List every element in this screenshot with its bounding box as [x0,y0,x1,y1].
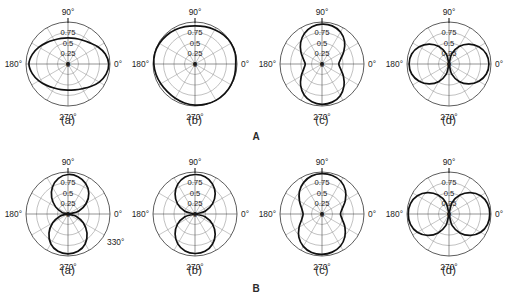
polar-axes: 00.250.50.7590°180°270°0° [4,2,132,120]
angle-tick-label-0deg: 0° [495,59,503,69]
polar-panel-B-a: 00.250.50.7590°180°270°0°330°(a) [4,152,132,292]
polar-panel-B-d: 00.250.50.7590°180°270°0°(d) [385,152,512,292]
angle-tick-label-0deg: 0° [368,59,376,69]
radial-tick-label-0.75: 0.75 [315,178,330,187]
angle-tick-label-90deg: 90° [62,157,75,167]
polar-axes: 00.250.50.7590°180°270°0° [258,2,386,120]
polar-axes: 00.250.50.7590°180°270°0°330° [4,152,132,270]
polar-panel-A-c: 00.250.50.7590°180°270°0°(c) [258,2,386,142]
polar-panel-B-c: 00.250.50.7590°180°270°0°(c) [258,152,386,292]
radial-tick-label-0.5: 0.5 [444,189,455,198]
panel-caption: (d) [385,264,512,276]
angle-tick-label-180deg: 180° [132,59,149,69]
grid-spoke-240 [301,214,322,250]
angle-tick-label-180deg: 180° [5,209,22,219]
grid-spoke-240 [47,64,68,100]
angle-tick-label-90deg: 90° [443,157,456,167]
panel-caption: (b) [131,264,259,276]
figure-caption-strip [0,299,512,308]
polar-panel-A-b: 00.250.50.7590°180°270°0°(b) [131,2,259,142]
radial-tick-label-0.75: 0.75 [442,28,457,37]
radial-tick-label-0.75: 0.75 [61,28,76,37]
radial-tick-label-0.5: 0.5 [444,39,455,48]
polar-axes: 00.250.50.7590°180°270°0° [258,152,386,270]
angle-tick-label-180deg: 180° [386,59,403,69]
panel-caption: (b) [131,114,259,126]
polar-panel-A-a: 00.250.50.7590°180°270°0°(a) [4,2,132,142]
radial-tick-label-0.5: 0.5 [190,39,201,48]
radial-tick-label-0.75: 0.75 [188,28,203,37]
section-label-B: B [0,283,512,294]
polar-axes: 00.250.50.7590°180°270°0° [131,2,259,120]
radial-tick-label-0: 0 [66,60,70,69]
grid-spoke-330 [322,214,358,235]
radial-tick-label-0.5: 0.5 [317,189,328,198]
angle-tick-label-90deg: 90° [316,7,329,17]
panel-caption: (a) [4,264,132,276]
polar-panel-B-b: 00.250.50.7590°180°270°0°(b) [131,152,259,292]
grid-spoke-300 [68,64,89,100]
radial-tick-label-0.25: 0.25 [315,199,330,208]
figure-row-A: 00.250.50.7590°180°270°0°(a)00.250.50.75… [0,2,512,142]
grid-spoke-240 [174,214,195,250]
section-label-A: A [0,131,512,142]
angle-tick-label-90deg: 90° [189,157,202,167]
radial-tick-label-0.75: 0.75 [315,28,330,37]
angle-tick-label-180deg: 180° [259,59,276,69]
angle-tick-label-0deg: 0° [368,209,376,219]
radial-tick-label-0.25: 0.25 [188,199,203,208]
radial-tick-label-0: 0 [320,60,324,69]
angle-tick-label-330deg: 330° [107,237,124,247]
angle-tick-label-180deg: 180° [132,209,149,219]
figure-row-B: 00.250.50.7590°180°270°0°330°(a)00.250.5… [0,152,512,292]
grid-spoke-300 [322,214,343,250]
radial-tick-label-0.25: 0.25 [188,49,203,58]
grid-spoke-210 [413,64,449,85]
grid-spoke-240 [47,214,68,250]
angle-tick-label-0deg: 0° [114,209,122,219]
grid-spoke-210 [286,214,322,235]
angle-tick-label-0deg: 0° [241,59,249,69]
angle-tick-label-90deg: 90° [62,7,75,17]
grid-spoke-240 [174,64,195,100]
polar-axes: 00.250.50.7590°180°270°0° [131,152,259,270]
grid-spoke-300 [195,64,216,100]
angle-tick-label-180deg: 180° [5,59,22,69]
radial-tick-label-0: 0 [193,60,197,69]
polar-axes: 00.250.50.7590°180°270°0° [385,152,512,270]
angle-tick-label-0deg: 0° [114,59,122,69]
radial-tick-label-0: 0 [320,210,324,219]
radial-tick-label-0.5: 0.5 [63,189,74,198]
angle-tick-label-90deg: 90° [316,157,329,167]
grid-spoke-210 [32,64,68,85]
radial-tick-label-0.75: 0.75 [442,178,457,187]
grid-spoke-330 [449,64,485,85]
grid-spoke-300 [68,214,89,250]
radial-tick-label-0.75: 0.75 [188,178,203,187]
radial-tick-label-0.5: 0.5 [63,39,74,48]
angle-tick-label-0deg: 0° [495,209,503,219]
radial-tick-label-0.25: 0.25 [61,199,76,208]
angle-tick-label-180deg: 180° [386,209,403,219]
grid-spoke-330 [195,64,231,85]
panel-caption: (c) [258,114,386,126]
angle-tick-label-180deg: 180° [259,209,276,219]
panel-caption: (a) [4,114,132,126]
polar-panel-A-d: 00.250.50.7590°180°270°0°(d) [385,2,512,142]
polar-plot-figure: 00.250.50.7590°180°270°0°(a)00.250.50.75… [0,0,512,308]
grid-spoke-210 [159,64,195,85]
polar-axes: 00.250.50.7590°180°270°0° [385,2,512,120]
radial-tick-label-0.75: 0.75 [61,178,76,187]
angle-tick-label-90deg: 90° [189,7,202,17]
angle-tick-label-90deg: 90° [443,7,456,17]
radial-tick-label-0.25: 0.25 [315,49,330,58]
radial-tick-label-0.5: 0.5 [317,39,328,48]
panel-caption: (d) [385,114,512,126]
angle-tick-label-0deg: 0° [241,209,249,219]
panel-caption: (c) [258,264,386,276]
radial-tick-label-0.5: 0.5 [190,189,201,198]
radial-tick-label-0.25: 0.25 [61,49,76,58]
